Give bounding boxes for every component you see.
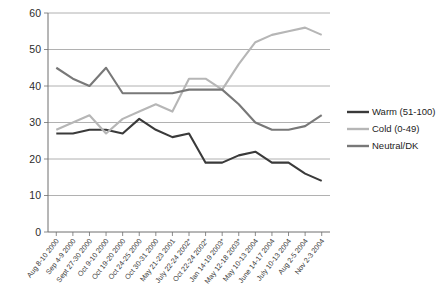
line-chart: 6050403020100 Aug 8-10 2000Sep 4-9 2000S…: [0, 0, 444, 301]
gridlines: [48, 13, 330, 196]
legend-label: Cold (0-49): [372, 123, 420, 134]
y-axis-tick-label: 50: [29, 43, 41, 55]
y-axis-labels: 6050403020100: [29, 7, 41, 238]
y-axis-tick-label: 10: [29, 189, 41, 201]
y-axis-tick-label: 0: [35, 226, 41, 238]
series-lines: [56, 28, 321, 181]
series-line-warm-51-100: [56, 119, 321, 181]
y-axis-tick-label: 40: [29, 80, 41, 92]
series-line-cold-0-49: [56, 28, 321, 134]
chart-canvas: 6050403020100 Aug 8-10 2000Sep 4-9 2000S…: [0, 0, 444, 301]
x-axis-ticks: [56, 232, 321, 236]
legend-label: Neutral/DK: [372, 140, 419, 151]
legend-label: Warm (51-100): [372, 106, 436, 117]
x-axis-labels: Aug 8-10 2000Sep 4-9 2000Sept 27-30 2000…: [25, 237, 327, 286]
y-axis-tick-label: 60: [29, 7, 41, 19]
chart-legend: Warm (51-100)Cold (0-49)Neutral/DK: [347, 106, 436, 151]
y-axis-tick-label: 30: [29, 116, 41, 128]
y-axis-ticks: [44, 13, 48, 232]
y-axis-tick-label: 20: [29, 153, 41, 165]
series-line-neutral-dk: [56, 68, 321, 130]
